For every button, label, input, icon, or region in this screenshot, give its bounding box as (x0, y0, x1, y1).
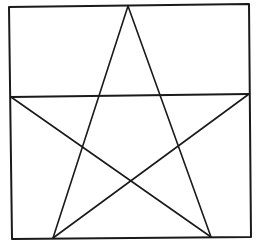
star-line-right-to-bottom-left (53, 94, 249, 238)
star-line-left-to-bottom-right (11, 97, 211, 237)
star-line-apex-to-bottom-right (128, 6, 211, 237)
horizontal-line (11, 94, 249, 97)
star-line-apex-to-bottom-left (53, 6, 128, 238)
pentagram-in-square-diagram (0, 0, 258, 247)
